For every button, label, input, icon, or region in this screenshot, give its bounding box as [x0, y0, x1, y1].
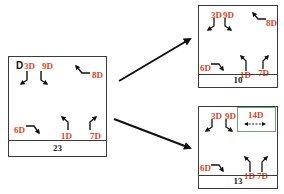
arrow-7d-icon: [262, 157, 267, 172]
left-panel-turn-arrows: [21, 66, 96, 133]
arrow-6d-icon: [211, 165, 223, 171]
arrow-6d-icon: [26, 126, 39, 133]
arrow-1d-icon: [245, 157, 250, 172]
double-arrow-icon: [244, 122, 266, 126]
arrow-8d-icon: [253, 13, 266, 19]
transition-arrow-up: [119, 39, 190, 81]
arrow-9d-icon: [226, 119, 232, 131]
arrow-1d-icon: [241, 56, 246, 71]
arrow-1d-icon: [62, 117, 68, 130]
arrows-layer: [0, 0, 284, 194]
transition-arrow-down: [114, 119, 190, 148]
arrow-9d-icon: [41, 71, 47, 84]
arrow-8d-icon: [76, 66, 90, 73]
arrow-3d-icon: [206, 119, 212, 131]
arrow-7d-icon: [90, 117, 96, 130]
arrow-3d-icon: [208, 18, 214, 30]
arrow-6d-icon: [211, 64, 223, 70]
arrow-3d-icon: [21, 71, 27, 84]
bottom-right-panel-turn-arrows: [206, 119, 267, 172]
arrow-9d-icon: [225, 18, 231, 30]
top-right-panel-turn-arrows: [208, 13, 268, 71]
arrow-7d-icon: [263, 56, 268, 69]
